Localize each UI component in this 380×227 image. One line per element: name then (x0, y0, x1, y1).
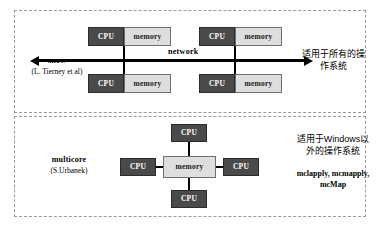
snow-connector-top-right (234, 46, 236, 60)
snow-connector-bottom-left (123, 60, 125, 74)
multicore-cpu-bottom: CPU (171, 190, 207, 208)
multicore-package-author: (S.Urbanek) (24, 166, 114, 175)
multicore-package-name: multicore (24, 155, 114, 164)
snow-memory-bottom-right: memory (235, 74, 282, 93)
multicore-function-list: mclapply, mcmapply, mcMap (288, 169, 378, 191)
multicore-link-bottom (188, 178, 190, 190)
snow-memory-top-right: memory (235, 27, 282, 46)
snow-connector-bottom-right (234, 60, 236, 74)
parallel-computing-diagram: CPU memory CPU memory CPU memory CPU mem… (0, 0, 380, 227)
snow-package-label: snow (L. Tierney et al) (14, 56, 100, 76)
snow-connector-top-left (123, 46, 125, 60)
snow-memory-top-left: memory (124, 27, 171, 46)
multicore-link-top (188, 142, 190, 156)
snow-package-author: (L. Tierney et al) (14, 67, 100, 76)
snow-cpu-top-left: CPU (88, 27, 124, 46)
snow-cpu-bottom-right: CPU (199, 74, 235, 93)
multicore-link-left (156, 166, 163, 168)
snow-memory-bottom-left: memory (124, 74, 171, 93)
multicore-package-label: multicore (S.Urbanek) (24, 155, 114, 175)
multicore-cpu-left: CPU (120, 158, 156, 176)
multicore-os-note: 适用于Windows以外的操作系统 (296, 133, 370, 157)
multicore-link-right (216, 166, 223, 168)
network-label: network (168, 47, 199, 56)
snow-cpu-bottom-left: CPU (88, 74, 124, 93)
snow-os-note: 适用于所有的操作系统 (300, 48, 366, 72)
snow-cpu-top-right: CPU (199, 27, 235, 46)
multicore-cpu-right: CPU (223, 158, 259, 176)
multicore-shared-memory: memory (163, 156, 216, 178)
snow-package-name: snow (14, 56, 100, 65)
multicore-cpu-top: CPU (171, 124, 207, 142)
